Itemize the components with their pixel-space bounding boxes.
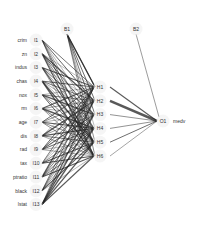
node-label: I2 [34,51,38,57]
input-variable-label: rm [21,105,27,111]
input-variable-label: crim [18,37,27,43]
edge-hidden-output [110,121,157,142]
edge-bias1-hidden [67,34,95,101]
bias-node-b2: B2 [130,23,143,36]
node-label: I6 [34,105,38,111]
node-label: I3 [34,64,38,70]
node-label: I9 [34,146,38,152]
input-variable-label: age [19,119,28,125]
node-label: I1 [34,37,38,43]
input-variable-label: indus [15,64,27,70]
input-node-i12: I12 [30,184,43,197]
input-node-i1: I1 [30,34,43,47]
node-label: I12 [33,188,40,194]
input-node-i7: I7 [30,116,43,129]
edge-bias2-output [136,34,159,117]
input-variable-label: dis [21,133,28,139]
input-variable-label: zn [22,51,28,57]
bias-node-b1: B1 [61,23,74,36]
edge-hidden-output [110,121,157,156]
input-node-i11: I11 [30,171,43,184]
input-node-i10: I10 [30,157,43,170]
hidden-node-h4: H4 [94,122,107,135]
neural-network-diagram: I1crimI2znI3indusI4chasI5noxI6rmI7ageI8d… [0,0,197,238]
input-node-i9: I9 [30,143,43,156]
output-variable-label: medv [173,118,186,124]
input-node-i5: I5 [30,88,43,101]
node-label: H1 [97,84,104,90]
hidden-node-h5: H5 [94,136,107,149]
node-label: B1 [64,26,70,32]
node-label: I10 [33,160,40,166]
output-node-o1: O1 [157,115,170,128]
input-variable-label: black [15,188,27,194]
input-variable-label: rad [20,146,27,152]
input-variable-label: ptratio [13,174,27,180]
node-label: H5 [97,139,104,145]
node-label: I5 [34,92,38,98]
node-label: O1 [160,118,167,124]
hidden-node-h3: H3 [94,108,107,121]
node-label: I11 [33,174,40,180]
edge-hidden-output [110,121,157,128]
network-nodes: I1crimI2znI3indusI4chasI5noxI6rmI7ageI8d… [13,23,186,211]
node-label: H2 [97,98,104,104]
node-label: H3 [97,111,104,117]
node-label: I4 [34,78,38,84]
node-label: H4 [97,125,104,131]
node-label: I7 [34,119,38,125]
hidden-node-h2: H2 [94,94,107,107]
edge-bias1-hidden [67,34,95,87]
node-label: B2 [133,26,139,32]
node-label: I8 [34,133,38,139]
hidden-node-h6: H6 [94,150,107,163]
input-node-i13: I13 [30,198,43,211]
input-node-i6: I6 [30,102,43,115]
input-variable-label: chas [16,78,27,84]
input-variable-label: tax [20,160,27,166]
input-variable-label: nox [19,92,28,98]
input-variable-label: lstat [18,201,28,207]
node-label: I13 [33,201,40,207]
hidden-node-h1: H1 [94,81,107,94]
input-node-i4: I4 [30,75,43,88]
input-node-i2: I2 [30,47,43,60]
node-label: H6 [97,153,104,159]
input-node-i3: I3 [30,61,43,74]
input-node-i8: I8 [30,129,43,142]
